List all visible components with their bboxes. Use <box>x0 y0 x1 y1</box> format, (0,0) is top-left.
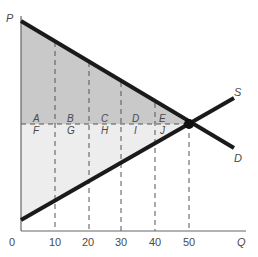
demand-label: D <box>234 152 242 164</box>
region-label-c: C <box>101 113 109 124</box>
region-label-h: H <box>101 125 109 136</box>
surplus-chart: P Q 0 10 20 30 40 50 S D A B C D E F G H… <box>0 0 258 257</box>
origin-label: 0 <box>9 236 15 248</box>
tick-label-40: 40 <box>149 236 161 248</box>
region-label-e: E <box>159 113 166 124</box>
region-label-a: A <box>32 113 40 124</box>
region-label-b: B <box>67 113 74 124</box>
region-label-d: D <box>132 113 139 124</box>
p-axis-label: P <box>6 12 14 24</box>
region-label-g: G <box>67 125 75 136</box>
tick-label-50: 50 <box>183 236 195 248</box>
tick-label-10: 10 <box>49 236 61 248</box>
q-axis-label: Q <box>237 236 246 248</box>
tick-label-20: 20 <box>82 236 94 248</box>
region-label-f: F <box>33 125 40 136</box>
equilibrium-point <box>184 119 194 129</box>
region-label-j: J <box>159 125 166 136</box>
region-label-i: I <box>134 125 137 136</box>
supply-label: S <box>234 86 242 98</box>
tick-label-30: 30 <box>115 236 127 248</box>
